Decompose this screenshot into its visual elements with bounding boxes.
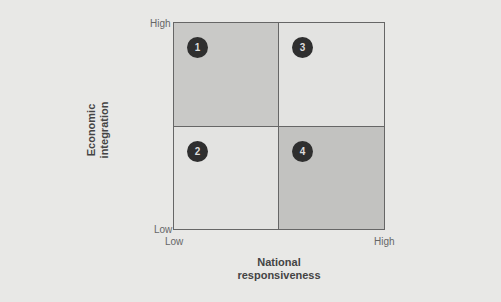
quadrant-number-badge: 2 (187, 141, 208, 162)
quadrant-4: 4 (279, 127, 384, 229)
x-axis-label-line2: responsiveness (237, 269, 320, 282)
matrix-grid: 1 3 2 4 (173, 22, 385, 230)
y-axis-label: Economic integration (85, 102, 111, 159)
quadrant-1: 1 (174, 23, 279, 127)
x-tick-high: High (374, 236, 395, 247)
x-axis-label-line1: National (237, 256, 320, 269)
quadrant-3: 3 (279, 23, 384, 127)
y-axis-label-line1: Economic (85, 102, 98, 159)
y-tick-low: Low (154, 224, 172, 235)
quadrant-number-badge: 3 (292, 37, 313, 58)
x-tick-low: Low (165, 236, 183, 247)
quadrant-number-badge: 4 (292, 141, 313, 162)
quadrant-number-badge: 1 (187, 37, 208, 58)
quadrant-2: 2 (174, 127, 279, 229)
y-tick-high: High (150, 18, 171, 29)
y-axis-label-line2: integration (98, 102, 111, 159)
x-axis-label: National responsiveness (237, 256, 320, 282)
